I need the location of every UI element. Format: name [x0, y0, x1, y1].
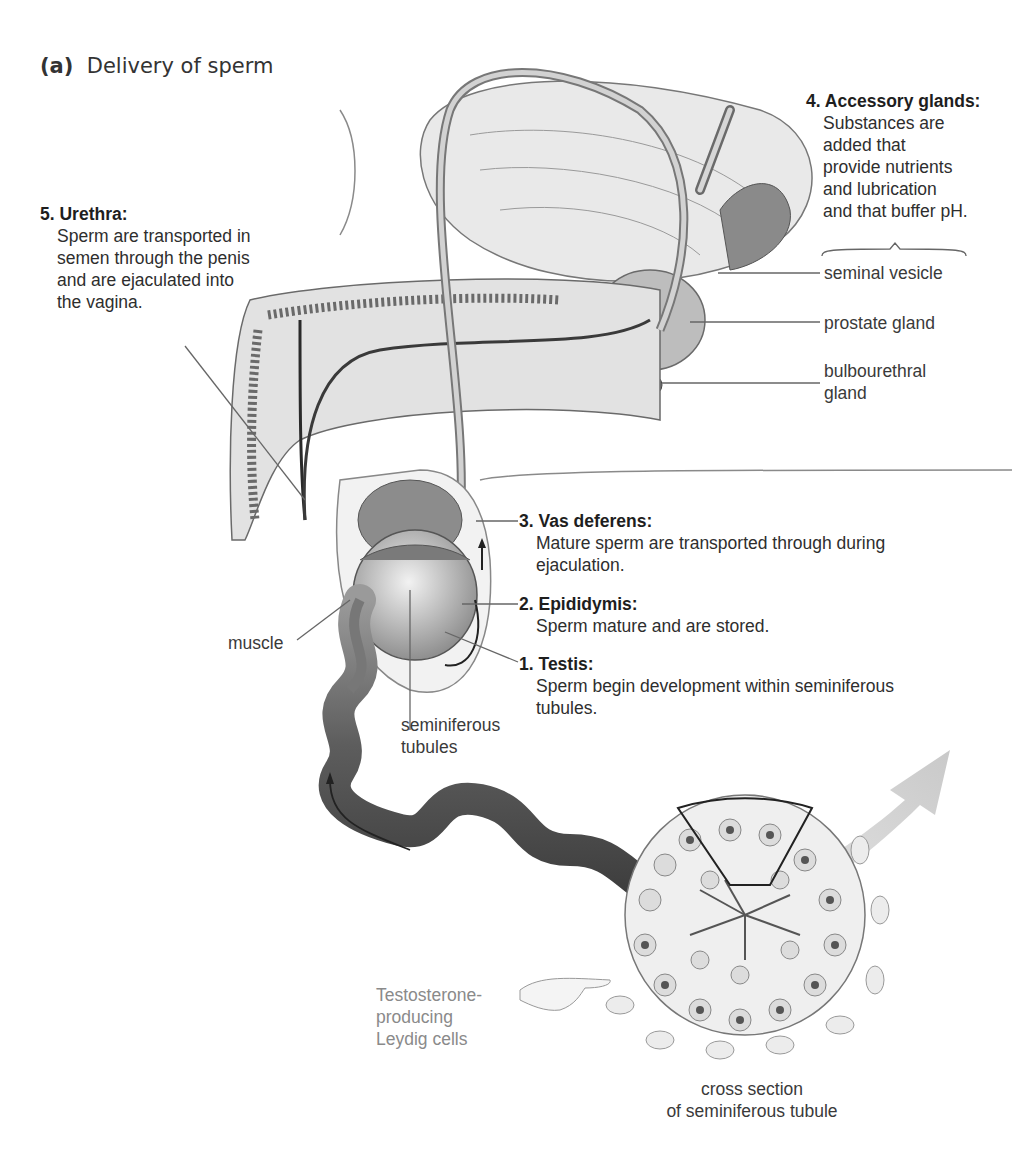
step-description: Sperm are transported in semen through t… [40, 225, 251, 313]
label-testis: 1. Testis: Sperm begin development withi… [519, 653, 894, 719]
step-description: Mature sperm are transported through dur… [519, 532, 885, 576]
desc-line: ejaculation. [536, 554, 885, 576]
pointing-hand-icon [520, 978, 610, 1010]
desc-line: the vagina. [57, 291, 251, 313]
desc-line: provide nutrients [823, 156, 980, 178]
step-number: 1. [519, 654, 534, 674]
desc-line: Sperm are transported in [57, 225, 251, 247]
figure-title: (a) Delivery of sperm [40, 54, 273, 78]
label-line: of seminiferous tubule [645, 1100, 859, 1122]
desc-line: tubules. [536, 697, 894, 719]
cross-section [606, 795, 889, 1059]
label-line: producing [376, 1006, 482, 1028]
step-number: 2. [519, 594, 534, 614]
desc-line: Substances are [823, 112, 980, 134]
step-description: Substances are added that provide nutrie… [806, 112, 980, 222]
label-line: seminiferous [401, 714, 500, 736]
label-line: tubules [401, 736, 500, 758]
step-number: 5. [40, 204, 55, 224]
label-accessory-glands: 4. Accessory glands: Substances are adde… [806, 90, 980, 222]
label-line: Testosterone- [376, 984, 482, 1006]
desc-line: Sperm begin development within seminifer… [536, 675, 894, 697]
desc-line: and are ejaculated into [57, 269, 251, 291]
desc-line: and lubrication [823, 178, 980, 200]
label-vas-deferens: 3. Vas deferens: Mature sperm are transp… [519, 510, 885, 576]
step-description: Sperm mature and are stored. [519, 615, 769, 637]
step-number: 3. [519, 511, 534, 531]
label-bulbourethral-gland: bulbourethral gland [824, 360, 926, 404]
step-heading: Urethra: [59, 204, 127, 224]
step-description: Sperm begin development within seminifer… [519, 675, 894, 719]
step-heading: Accessory glands: [825, 91, 981, 111]
label-prostate-gland: prostate gland [824, 312, 935, 334]
desc-line: semen through the penis [57, 247, 251, 269]
label-urethra: 5. Urethra: Sperm are transported in sem… [40, 203, 251, 313]
label-leydig-cells: Testosterone- producing Leydig cells [376, 984, 482, 1050]
label-line: gland [824, 382, 926, 404]
step-heading: Vas deferens: [538, 511, 652, 531]
label-line: bulbourethral [824, 360, 926, 382]
label-cross-section: cross section of seminiferous tubule [645, 1078, 859, 1122]
label-seminal-vesicle: seminal vesicle [824, 262, 943, 284]
desc-line: added that [823, 134, 980, 156]
step-number: 4. [806, 91, 821, 111]
desc-line: Sperm mature and are stored. [536, 615, 769, 637]
step-heading: Epididymis: [538, 594, 637, 614]
step-heading: Testis: [538, 654, 593, 674]
label-seminiferous-tubules: seminiferous tubules [401, 714, 500, 758]
desc-line: and that buffer pH. [823, 200, 980, 222]
figure-title-text: Delivery of sperm [87, 54, 274, 78]
label-line: cross section [645, 1078, 859, 1100]
label-line: Leydig cells [376, 1028, 482, 1050]
panel-letter: (a) [40, 54, 73, 78]
desc-line: Mature sperm are transported through dur… [536, 532, 885, 554]
label-muscle: muscle [228, 632, 283, 654]
label-epididymis: 2. Epididymis: Sperm mature and are stor… [519, 593, 769, 637]
